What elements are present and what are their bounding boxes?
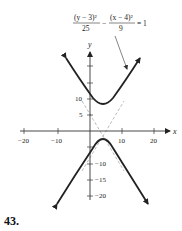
y-tick-5: 5 <box>79 111 83 119</box>
equation-denominator-2: 9 <box>119 24 123 33</box>
figure-number: 43. <box>4 214 19 229</box>
y-tick-10: 10 <box>75 95 83 103</box>
equation: (y − 3)² 25 − (x − 4)² 9 = 1 <box>73 13 147 33</box>
x-tick-20: 20 <box>150 137 158 145</box>
x-tick-neg20: −20 <box>18 137 29 145</box>
y-tick-neg20: −20 <box>95 192 106 200</box>
equation-denominator-1: 25 <box>82 24 90 33</box>
x-tick-neg10: −10 <box>51 137 62 145</box>
y-tick-neg15: −15 <box>95 176 106 184</box>
x-tick-10: 10 <box>118 137 126 145</box>
y-tick-neg10: −10 <box>95 160 106 168</box>
equation-numerator-2: (x − 4)² <box>110 13 133 22</box>
x-axis-label: x <box>172 127 177 136</box>
equation-minus: − <box>102 19 106 28</box>
y-axis: 10 5 −10 −15 −20 y <box>75 40 106 200</box>
annotation-arrow <box>115 36 127 69</box>
hyperbola-graph: −20 −10 10 20 x 10 5 −10 −15 −20 y (y − … <box>0 0 182 231</box>
equation-rhs: = 1 <box>137 19 147 28</box>
equation-numerator-1: (y − 3)² <box>74 13 97 22</box>
y-axis-label: y <box>87 40 92 49</box>
